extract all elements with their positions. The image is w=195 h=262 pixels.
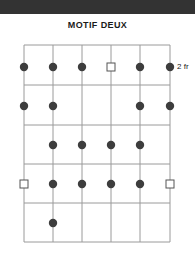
marker-filled-r1-c1[interactable] — [20, 63, 28, 71]
marker-filled-r3-c4[interactable] — [107, 141, 115, 149]
fret-position-label: 2 fr — [177, 62, 189, 71]
marker-filled-r4-c2[interactable] — [49, 180, 57, 188]
marker-filled-r4-c4[interactable] — [107, 180, 115, 188]
marker-filled-r2-c2[interactable] — [49, 102, 57, 110]
marker-open-square-r1-c4[interactable] — [107, 63, 115, 71]
marker-filled-r3-c5[interactable] — [136, 141, 144, 149]
marker-open-square-r4-c1[interactable] — [20, 180, 28, 188]
marker-filled-r5-c2[interactable] — [49, 219, 57, 227]
marker-filled-r3-c3[interactable] — [78, 141, 86, 149]
marker-filled-r2-c5[interactable] — [136, 102, 144, 110]
marker-filled-r2-c1[interactable] — [20, 102, 28, 110]
marker-filled-r1-c2[interactable] — [49, 63, 57, 71]
marker-filled-r1-c6[interactable] — [166, 63, 174, 71]
marker-filled-r1-c5[interactable] — [136, 63, 144, 71]
marker-filled-r4-c3[interactable] — [78, 180, 86, 188]
chord-grid-diagram: 2 fr — [0, 0, 195, 262]
marker-filled-r3-c2[interactable] — [49, 141, 57, 149]
grid-svg — [0, 0, 195, 262]
marker-filled-r1-c3[interactable] — [78, 63, 86, 71]
marker-filled-r2-c6[interactable] — [166, 102, 174, 110]
marker-open-square-r4-c6[interactable] — [166, 180, 174, 188]
marker-filled-r4-c5[interactable] — [136, 180, 144, 188]
